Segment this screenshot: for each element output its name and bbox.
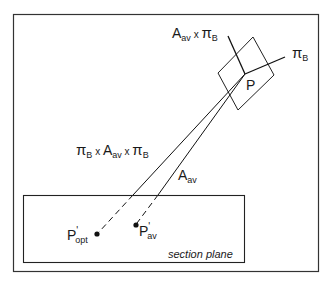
line-average xyxy=(158,74,245,195)
label-line-average: Aav xyxy=(178,167,197,185)
point-p-opt xyxy=(94,231,99,236)
line-optimal-dashed xyxy=(99,195,133,232)
label-section-plane: section plane xyxy=(168,248,233,260)
label-point-p: P xyxy=(246,77,255,93)
axis-perpendicular xyxy=(228,36,245,74)
outer-frame xyxy=(14,15,319,272)
label-p-av: P'av xyxy=(139,221,157,241)
label-line-optimal: πB x Aav x πB xyxy=(76,141,149,160)
label-p-opt: P'opt xyxy=(67,225,88,245)
point-p-av xyxy=(133,222,138,227)
label-axis-pi: πB xyxy=(292,44,308,63)
label-axis-perp: Aav x πB xyxy=(172,24,218,43)
line-average-dashed xyxy=(137,195,158,223)
diagram-canvas: Aav x πB πB P πB x Aav x πB Aav P'opt P'… xyxy=(0,0,332,282)
